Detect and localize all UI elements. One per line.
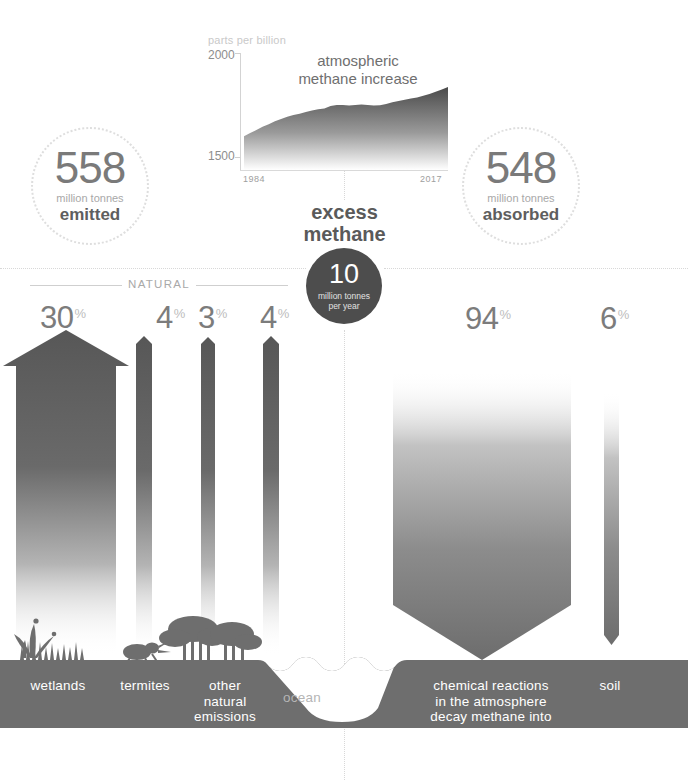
- chart-x-axis-start-label: 1984: [243, 174, 265, 184]
- percent-soil-symbol: %: [618, 307, 630, 322]
- excess-unit-line1: million tonnes: [318, 291, 370, 301]
- label-soil: soil: [575, 678, 645, 694]
- emitted-section-divider: [0, 268, 306, 269]
- label-chemical-line4: water & CO2: [396, 725, 586, 741]
- chart-title: atmospheric methane increase: [268, 52, 448, 89]
- percent-termites: 4%: [156, 302, 185, 333]
- percent-other-value: 3: [198, 300, 215, 335]
- infographic-canvas: parts per billion 2000 1500 atmospheric …: [0, 0, 688, 780]
- label-termites: termites: [104, 678, 186, 694]
- percent-termites-value: 4: [156, 300, 173, 335]
- chart-title-line2: methane increase: [268, 70, 448, 88]
- label-wetlands: wetlands: [8, 678, 108, 694]
- excess-unit-line2: per year: [328, 301, 359, 311]
- absorbed-total-circle: 548 million tonnes absorbed: [462, 127, 580, 245]
- emitted-label: emitted: [60, 205, 120, 225]
- absorbed-section-divider: [384, 268, 688, 269]
- label-ocean: ocean: [262, 690, 342, 706]
- label-chemical-line2: in the atmosphere: [396, 694, 586, 710]
- percent-soil-value: 6: [600, 301, 617, 336]
- chart-y-axis-max-tick-label: 2000: [208, 48, 235, 62]
- percent-termites-symbol: %: [174, 306, 186, 321]
- natural-bracket-rule-left: [30, 285, 122, 286]
- label-chemical-line1: chemical reactions: [396, 678, 586, 694]
- label-other-natural-emissions: other natural emissions: [182, 678, 268, 725]
- center-divider-line-top: [344, 170, 345, 200]
- absorbed-unit: million tonnes: [487, 193, 554, 204]
- chart-y-axis-min-tick-label: 1500: [208, 149, 235, 163]
- excess-title-line2: methane: [288, 224, 401, 246]
- percent-chemical-value: 94: [465, 301, 498, 336]
- natural-bracket-label: NATURAL: [124, 278, 194, 290]
- emitted-unit: million tonnes: [56, 193, 123, 204]
- percent-wetlands-symbol: %: [74, 306, 86, 321]
- label-other-line1: other: [182, 678, 268, 694]
- emitted-value: 558: [55, 147, 125, 188]
- natural-bracket-rule-right: [196, 285, 288, 286]
- percent-chemical-symbol: %: [499, 307, 511, 322]
- percent-other-symbol: %: [216, 306, 228, 321]
- emitted-total-circle: 558 million tonnes emitted: [31, 127, 149, 245]
- percent-chemical-reactions: 94%: [465, 303, 511, 334]
- chart-y-axis-line: [240, 53, 241, 170]
- chart-title-line1: atmospheric: [268, 52, 448, 70]
- wetland-vegetation-icon: [14, 618, 84, 660]
- excess-title-line1: excess: [288, 202, 401, 224]
- forest-icon: [159, 616, 262, 661]
- excess-methane-badge: 10 million tonnes per year: [306, 248, 382, 324]
- percent-ocean-value: 4: [260, 300, 277, 335]
- label-chemical-line3: decay methane into: [396, 709, 586, 725]
- percent-soil: 6%: [600, 303, 629, 334]
- percent-ocean-symbol: %: [278, 306, 290, 321]
- label-chemical-reactions: chemical reactions in the atmosphere dec…: [396, 678, 586, 741]
- excess-methane-title: excess methane: [288, 202, 401, 245]
- percent-ocean: 4%: [260, 302, 289, 333]
- label-other-line2: natural: [182, 694, 268, 710]
- percent-wetlands-value: 30: [40, 300, 73, 335]
- label-other-line3: emissions: [182, 709, 268, 725]
- atmospheric-methane-chart: parts per billion 2000 1500 atmospheric …: [208, 34, 448, 184]
- absorbed-value: 548: [486, 147, 556, 188]
- chart-x-axis-end-label: 2017: [420, 174, 442, 184]
- percent-other-natural-emissions: 3%: [198, 302, 227, 333]
- absorbed-label: absorbed: [483, 205, 560, 225]
- percent-wetlands: 30%: [40, 302, 86, 333]
- excess-value: 10: [329, 261, 359, 288]
- chart-units-label: parts per billion: [208, 34, 286, 46]
